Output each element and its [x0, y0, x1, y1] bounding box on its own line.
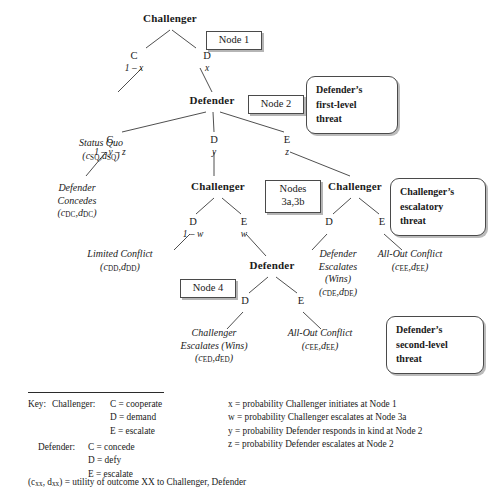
edge-n3a-D	[196, 198, 214, 214]
branch-label-n2-D: D y	[194, 134, 234, 158]
outcome-payoff: (cDC,dDC)	[32, 207, 122, 220]
probability-label: x	[187, 63, 227, 75]
game-tree-figure: Challenger Defender Challenger Challenge…	[0, 0, 494, 504]
probability-label: z	[267, 147, 307, 159]
legend-entry: C = cooperate	[110, 398, 162, 411]
utility-sub1: xx	[35, 480, 42, 488]
utility-suffix: ) = utility of outcome XX to Challenger,…	[59, 477, 246, 487]
legend-player-name: Defender:	[38, 441, 75, 454]
outcome-label: Limited Conflict	[64, 248, 176, 261]
legend-key-label: Key:	[28, 398, 46, 411]
legend-entry: E = escalate	[110, 425, 162, 438]
threat-box-challenger-escalatory: Challenger’s escalatory threat	[390, 178, 486, 236]
edge-n1-C	[146, 30, 170, 48]
threat-line-3: threat	[396, 352, 474, 367]
edge-n2-D	[213, 112, 214, 132]
action-letter: D	[187, 50, 227, 63]
legend-entry: D = demand	[110, 411, 162, 424]
legend-prob-x: x = probability Challenger initiates at …	[228, 398, 423, 411]
legend-utility-note: (cxx, dxx) = utility of outcome XX to Ch…	[28, 476, 246, 489]
outcome-payoff: (cEE,dEE)	[266, 340, 374, 353]
legend-prob-z: z = probability Defender escalates at No…	[228, 438, 423, 451]
legend-divider	[28, 392, 164, 393]
outcome-label-line2: Escalates (Wins)	[152, 340, 276, 353]
probability-label: w	[225, 229, 263, 241]
branch-label-n3a-D: D 1 – w	[172, 216, 214, 240]
outcome-label-line1: Challenger	[152, 327, 276, 340]
edge-n2-E	[220, 112, 284, 132]
threat-line-3: threat	[316, 112, 388, 127]
nodes-3-line1: Nodes	[272, 183, 314, 196]
edge-n3b-E	[359, 198, 379, 214]
tree-node-challenger-1: Challenger	[130, 12, 210, 25]
nodes-3-line2: 3a,3b	[272, 196, 314, 209]
node-label-node-1: Node 1	[206, 31, 262, 50]
branch-label-n3b-D: D	[310, 216, 348, 229]
outcome-all-out-conflict-lower: All-Out Conflict (cEE,dEE)	[266, 327, 374, 352]
outcome-payoff: (cEE,dEE)	[355, 261, 465, 274]
threat-line-1: Defender’s	[396, 323, 474, 338]
edge-n4-D	[249, 277, 268, 293]
outcome-payoff: (cDD,dDD)	[64, 261, 176, 274]
outcome-payoff: (cDE,dDE)	[294, 286, 382, 299]
threat-line-2: second-level	[396, 338, 474, 353]
action-letter: E	[267, 134, 307, 147]
action-letter: D	[310, 216, 348, 229]
edge-n1-D	[172, 30, 196, 48]
outcome-all-out-conflict-upper: All-Out Conflict (cEE,dEE)	[355, 248, 465, 273]
outcome-defender-concedes: Defender Concedes (cDC,dDC)	[32, 182, 122, 220]
outcome-payoff: (cSQ,dSQ)	[56, 150, 146, 163]
threat-line-1: Defender’s	[316, 83, 388, 98]
branch-label-n1-C: C 1 – x	[114, 50, 154, 74]
threat-box-defender-first-level: Defender’s first-level threat	[306, 76, 398, 134]
node-label-node-2: Node 2	[248, 95, 304, 114]
outcome-label: All-Out Conflict	[266, 327, 374, 340]
action-letter: C	[114, 50, 154, 63]
threat-line-2: escalatory	[400, 200, 476, 215]
threat-line-3: threat	[400, 214, 476, 229]
threat-line-1: Challenger’s	[400, 185, 476, 200]
probability-label: y	[194, 147, 234, 159]
tree-node-defender-2: Defender	[172, 94, 252, 107]
threat-box-defender-second-level: Defender’s second-level threat	[386, 316, 484, 374]
tree-node-challenger-3b: Challenger	[315, 180, 395, 193]
legend-entry: D = defy	[88, 454, 135, 467]
utility-mid: , d	[43, 477, 52, 487]
branch-label-n1-D: D x	[187, 50, 227, 74]
outcome-label-line1: Defender	[32, 182, 122, 195]
branch-label-n3a-E: E w	[225, 216, 263, 240]
edge-n2-C	[122, 112, 206, 132]
legend-entry: C = concede	[88, 441, 135, 454]
action-letter: E	[225, 216, 263, 229]
legend-player-name: Challenger:	[52, 398, 95, 411]
edge-n3a-E	[222, 198, 241, 214]
outcome-limited-conflict: Limited Conflict (cDD,dDD)	[64, 248, 176, 273]
legend-prob-y: y = probability Defender responds in kin…	[228, 425, 423, 438]
probability-label: 1 – w	[172, 229, 214, 241]
outcome-challenger-escalates-wins: Challenger Escalates (Wins) (cED,dED)	[152, 327, 276, 365]
action-letter: D	[172, 216, 214, 229]
node-label-nodes-3a-3b: Nodes 3a,3b	[265, 180, 321, 213]
probability-label: 1 – x	[114, 63, 154, 75]
outcome-label-line2: Concedes	[32, 195, 122, 208]
outcome-payoff: (cED,dED)	[152, 352, 276, 365]
edge-n3b-D	[333, 198, 351, 214]
node-label-node-4: Node 4	[180, 279, 236, 298]
outcome-label: Status Quo	[56, 137, 146, 150]
tree-node-challenger-3a: Challenger	[178, 180, 258, 193]
threat-line-2: first-level	[316, 98, 388, 113]
branch-label-n2-E: E z	[267, 134, 307, 158]
outcome-label: All-Out Conflict	[355, 248, 465, 261]
legend-probabilities: x = probability Challenger initiates at …	[228, 398, 423, 452]
outcome-label-line3: (Wins)	[294, 273, 382, 286]
legend-prob-w: w = probability Challenger escalates at …	[228, 411, 423, 424]
outcome-status-quo: Status Quo (cSQ,dSQ)	[56, 137, 146, 162]
action-letter: D	[194, 134, 234, 147]
